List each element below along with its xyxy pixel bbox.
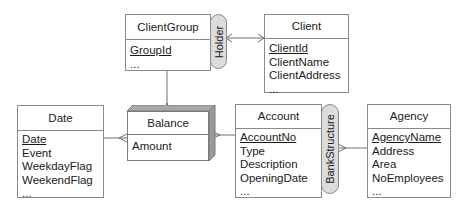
entity-title: Agency [368, 105, 450, 129]
primary-key: GroupId [130, 44, 208, 58]
attribute: Type [240, 145, 319, 159]
entity-title: Account [236, 105, 321, 129]
attribute: ... [269, 83, 346, 97]
attribute: ... [240, 185, 319, 199]
attribute: Event [22, 147, 101, 161]
relationship-label: BankStructure [324, 114, 336, 184]
relationship-bankstructure[interactable]: BankStructure [321, 104, 339, 194]
entity-client[interactable]: Client ClientId ClientName ClientAddress… [264, 14, 349, 93]
entity-title: Balance [127, 112, 209, 135]
primary-key: AccountNo [240, 131, 319, 145]
attribute: NoEmployees [372, 172, 448, 186]
primary-key: AgencyName [372, 131, 448, 145]
attribute: ... [130, 58, 208, 72]
attribute: Address [372, 145, 448, 159]
entity-balance[interactable]: Balance Amount [127, 105, 217, 161]
relationship-label: Holder [213, 25, 225, 57]
attribute: Description [240, 158, 319, 172]
entity-account[interactable]: Account AccountNo Type Description Openi… [235, 104, 322, 198]
entity-title: Date [18, 106, 103, 131]
entity-title: ClientGroup [126, 15, 210, 40]
primary-key: ClientId [269, 42, 346, 56]
attribute: WeekendFlag [22, 174, 101, 188]
attribute: WeekdayFlag [22, 160, 101, 174]
attribute: ... [22, 187, 101, 201]
attribute: ClientName [269, 56, 346, 70]
entity-date[interactable]: Date Date Event WeekdayFlag WeekendFlag … [17, 105, 104, 198]
attribute: ClientAddress [269, 69, 346, 83]
relationship-holder[interactable]: Holder [210, 14, 227, 69]
primary-key: Date [22, 133, 101, 147]
attribute: Amount [132, 139, 172, 153]
entity-clientgroup[interactable]: ClientGroup GroupId ... [125, 14, 211, 71]
entity-agency[interactable]: Agency AgencyName Address Area NoEmploye… [367, 104, 451, 198]
attribute: Area [372, 158, 448, 172]
entity-title: Client [265, 15, 348, 39]
attribute: OpeningDate [240, 172, 319, 186]
attribute: ... [372, 185, 448, 199]
